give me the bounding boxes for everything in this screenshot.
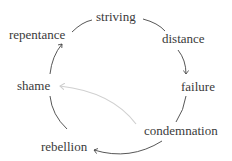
edge-rebellion-shame: [50, 96, 67, 129]
node-failure: failure: [181, 80, 215, 93]
node-repentance: repentance: [9, 28, 65, 41]
edge-striving-distance: [143, 19, 165, 31]
edge-failure-condemnation: [176, 96, 186, 122]
node-shame: shame: [17, 79, 50, 92]
edge-condemnation-rebellion: [94, 141, 162, 154]
edge-shame-repentance: [50, 44, 62, 74]
edge-distance-failure: [178, 50, 186, 74]
edge-condemnation-shame: [60, 86, 136, 124]
edge-repentance-striving: [72, 20, 92, 32]
node-distance: distance: [162, 32, 205, 45]
node-striving: striving: [96, 10, 136, 23]
node-condemnation: condemnation: [144, 124, 218, 137]
node-rebellion: rebellion: [41, 140, 87, 153]
